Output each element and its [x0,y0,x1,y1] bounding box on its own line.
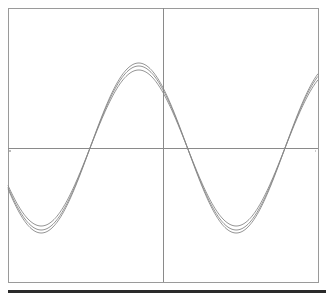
bottom-bar [8,290,326,293]
x-axis-right-marker [315,150,316,152]
x-axis-left-marker [9,150,11,152]
sine-plot [0,0,326,295]
